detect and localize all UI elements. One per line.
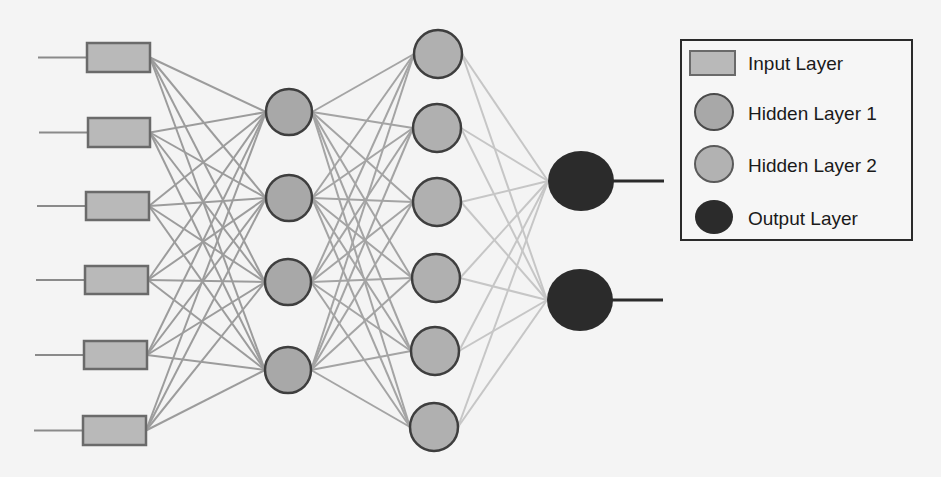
input-node — [83, 416, 146, 445]
hidden2-node — [410, 403, 458, 451]
legend-swatch-hidden1-icon — [695, 94, 733, 130]
hidden1-node — [265, 259, 311, 305]
legend: Input Layer Hidden Layer 1 Hidden Layer … — [681, 40, 912, 240]
neural-network-diagram: Input Layer Hidden Layer 1 Hidden Layer … — [0, 0, 941, 477]
hidden2-node — [413, 178, 461, 226]
input-node — [84, 341, 147, 369]
legend-swatch-output-icon — [695, 200, 733, 234]
hidden2-node — [411, 327, 459, 375]
hidden2-node — [412, 254, 460, 302]
input-node — [86, 192, 149, 220]
hidden1-node — [266, 175, 312, 221]
legend-label-output: Output Layer — [748, 208, 859, 229]
input-node — [88, 118, 150, 147]
output-node — [548, 151, 614, 211]
legend-label-hidden2: Hidden Layer 2 — [748, 155, 877, 176]
input-node — [87, 43, 150, 72]
legend-swatch-input-icon — [690, 51, 735, 75]
hidden2-node — [413, 104, 461, 152]
hidden1-node — [265, 347, 311, 393]
hidden2-node — [414, 30, 462, 78]
input-node — [85, 266, 148, 294]
hidden1-node — [266, 89, 312, 135]
legend-label-input: Input Layer — [748, 53, 844, 74]
legend-swatch-hidden2-icon — [695, 146, 733, 182]
legend-label-hidden1: Hidden Layer 1 — [748, 103, 877, 124]
output-node — [547, 269, 613, 331]
